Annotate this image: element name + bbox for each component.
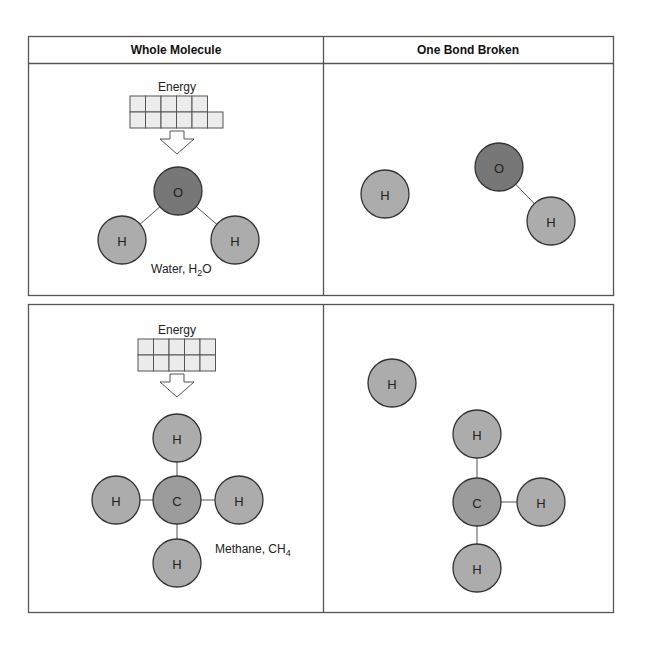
atom-label: H [111,494,120,509]
atom-label: H [230,234,239,249]
energy-grid [130,96,223,128]
energy-grid [138,339,216,371]
energy-label: Energy [158,80,196,94]
atom-label: H [380,188,389,203]
atom-label: H [536,496,545,511]
atom-label: H [234,494,243,509]
atom-label: H [387,377,396,392]
atom-label: H [472,562,481,577]
methane-panel: Energy H H H H C Methane, CH4 H [29,305,614,613]
atom-label: O [173,185,183,200]
methane-panel-border [29,305,614,613]
down-arrow-icon [160,131,194,154]
down-arrow-icon [160,374,194,397]
atom-label: H [172,432,181,447]
water-caption: Water, H2O [151,262,212,278]
header-one-bond-broken: One Bond Broken [417,43,519,57]
methane-caption: Methane, CH4 [215,542,291,558]
energy-label: Energy [158,323,196,337]
water-panel: Whole Molecule One Bond Broken Energy O … [29,37,614,296]
atom-label: H [172,557,181,572]
atom-label: C [472,496,481,511]
atom-label: H [546,215,555,230]
atom-label: C [172,494,181,509]
atom-label: H [117,234,126,249]
bond-energy-diagram: Whole Molecule One Bond Broken Energy O … [0,0,645,646]
header-whole-molecule: Whole Molecule [131,43,222,57]
atom-label: O [494,161,504,176]
atom-label: H [472,428,481,443]
